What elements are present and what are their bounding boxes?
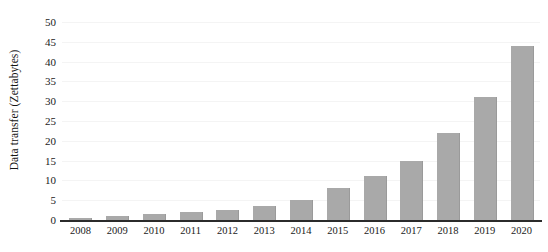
x-tick-label: 2013: [246, 224, 283, 238]
y-tick-label: 50: [34, 17, 56, 28]
y-tick-label: 20: [34, 135, 56, 146]
x-axis-ticks: 2008200920102011201220132014201520162017…: [62, 224, 540, 244]
bar: [437, 133, 460, 220]
bar: [364, 176, 387, 220]
y-axis-ticks: 05101520253035404550: [30, 22, 56, 220]
y-tick-label: 15: [34, 155, 56, 166]
y-tick-label: 5: [34, 195, 56, 206]
y-axis-title: Data transfer (Zettabytes): [0, 0, 28, 220]
bar: [474, 97, 497, 220]
bar: [327, 188, 350, 220]
x-tick-label: 2019: [466, 224, 503, 238]
bar: [253, 206, 276, 220]
bar: [216, 210, 239, 220]
bar: [511, 46, 534, 220]
x-tick-label: 2014: [283, 224, 320, 238]
y-axis-title-label: Data transfer (Zettabytes): [8, 50, 20, 171]
y-tick-label: 30: [34, 96, 56, 107]
x-axis-line: [60, 220, 542, 222]
x-tick-label: 2012: [209, 224, 246, 238]
x-tick-label: 2015: [319, 224, 356, 238]
bar: [290, 200, 313, 220]
y-tick-label: 0: [34, 215, 56, 226]
x-tick-label: 2016: [356, 224, 393, 238]
y-tick-label: 45: [34, 36, 56, 47]
y-tick-label: 10: [34, 175, 56, 186]
x-tick-label: 2018: [430, 224, 467, 238]
x-tick-label: 2011: [172, 224, 209, 238]
bars-layer: [62, 22, 540, 220]
bar: [180, 212, 203, 220]
x-tick-label: 2010: [136, 224, 173, 238]
x-tick-label: 2020: [503, 224, 540, 238]
y-tick-label: 25: [34, 116, 56, 127]
bar: [400, 161, 423, 220]
x-tick-label: 2017: [393, 224, 430, 238]
x-tick-label: 2008: [62, 224, 99, 238]
y-tick-label: 35: [34, 76, 56, 87]
y-tick-label: 40: [34, 56, 56, 67]
x-tick-label: 2009: [99, 224, 136, 238]
bar-chart: Data transfer (Zettabytes) 0510152025303…: [0, 0, 548, 252]
